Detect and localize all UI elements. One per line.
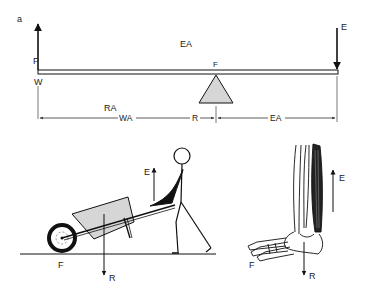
foot-fulcrum-label: F (249, 260, 255, 270)
foot-effort-label: E (339, 173, 345, 183)
foot-resistance-label: R (309, 271, 316, 281)
foot-group: R F E (248, 144, 345, 281)
resistance-label: R (192, 113, 198, 123)
resistance-arm-label: RA (104, 103, 117, 113)
wheelbarrow-effort-label: E (144, 167, 150, 177)
lever-group: F W E EA F RA WA R EA (33, 22, 347, 123)
effort-label: E (341, 22, 347, 32)
effort-arm-label-bottom: EA (270, 113, 282, 123)
foot-skeleton-icon (248, 144, 323, 261)
effort-arm-label-top: EA (180, 39, 192, 49)
wheelbarrow-group: R F E (20, 148, 216, 283)
stick-figure-icon (150, 148, 211, 253)
lever-beam (38, 70, 338, 74)
fulcrum-label: F (213, 60, 218, 69)
wheelbarrow-resistance-label: R (109, 273, 116, 283)
left-force-label: F (33, 56, 39, 66)
weight-arm-label: WA (119, 113, 133, 123)
fulcrum-triangle-icon (199, 75, 233, 103)
left-weight-label: W (34, 77, 43, 87)
wheelbarrow-fulcrum-label: F (58, 260, 64, 270)
panel-label: a (17, 14, 22, 24)
lever-diagram-figure: a F W E EA F RA WA R EA (0, 0, 366, 295)
